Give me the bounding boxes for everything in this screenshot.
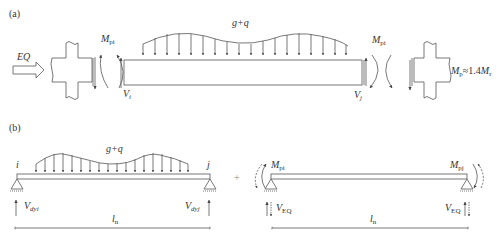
reaction-vdyj-label: Vdyj	[185, 201, 200, 213]
moment-label-left: Mpi	[101, 34, 115, 46]
load-arrows-a	[143, 33, 346, 55]
moment-pj-arc-dashed	[478, 164, 483, 188]
panel-a-label: (a)	[9, 9, 20, 19]
panel-b	[10, 153, 483, 228]
span-label-left: ln	[112, 214, 118, 226]
plus-sign: +	[234, 173, 240, 183]
beam-b-right	[271, 174, 467, 179]
moment-pi-arc-dashed	[255, 164, 262, 188]
moment-arc-right-1	[370, 55, 378, 88]
shear-label-vi: Vi	[123, 89, 131, 101]
node-i-label: i	[16, 160, 19, 170]
pin-support-right2-icon	[460, 179, 474, 191]
moment-arc-right-2	[386, 55, 392, 88]
moment-arc-left-1	[100, 55, 108, 88]
pin-support-right-icon	[203, 179, 217, 191]
shear-label-vj: Vj	[354, 90, 362, 102]
panel-b-label: (b)	[9, 123, 21, 133]
moment-pj-arc	[473, 164, 477, 188]
pin-support-left2-icon	[264, 179, 278, 191]
veq-right-label: VEQ	[445, 203, 460, 215]
load-label-a: g+q	[232, 18, 249, 28]
reaction-vdyi-label: Vdyi	[24, 201, 39, 213]
earthquake-arrow-icon	[13, 62, 44, 78]
left-joint	[51, 42, 92, 100]
span-label-right: ln	[370, 214, 376, 226]
moment-pi-label: Mpi	[271, 160, 285, 172]
veq-left-label: VEQ	[276, 203, 291, 215]
beam-b-left	[17, 174, 210, 179]
moment-arc-left-2	[117, 55, 123, 88]
moment-pj-label: Mpj	[450, 160, 464, 172]
diagram-canvas	[0, 0, 502, 241]
load-curve-b	[36, 154, 188, 164]
load-curve-a	[143, 33, 348, 46]
beam-a	[124, 60, 362, 85]
plastic-moment-relation: Mp≈1.4Mr	[451, 66, 492, 78]
node-j-label: j	[207, 160, 210, 170]
moment-pi-arc	[262, 164, 266, 188]
earthquake-label: EQ	[17, 52, 30, 62]
load-label-b: g+q	[106, 144, 123, 154]
right-joint	[414, 42, 451, 100]
pin-support-left-icon	[10, 179, 24, 191]
moment-label-right: Mpi	[372, 35, 386, 47]
